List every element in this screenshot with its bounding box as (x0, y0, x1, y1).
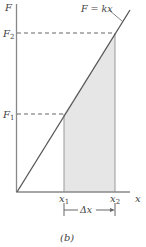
figure-caption: (b) (60, 232, 74, 243)
x2-label: x2 (110, 193, 120, 206)
x1-label: x1 (59, 193, 69, 206)
y-axis-label: F (4, 2, 13, 13)
f1-label: F1 (2, 109, 14, 122)
f2-label: F2 (2, 28, 14, 41)
delta-x-label: Δx (79, 204, 93, 215)
line-label: F = kx (80, 3, 113, 14)
x-axis-label: x (135, 193, 141, 204)
